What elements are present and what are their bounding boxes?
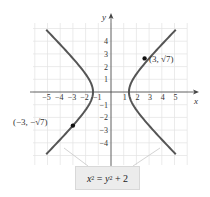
y-tick-label: 3 [104,50,108,59]
x-tick-label: 2 [135,93,139,102]
leader-line-right [133,148,160,166]
point-3-sqrt7 [142,56,146,60]
x-tick-label: −3 [68,93,77,102]
y-tick-label: −4 [99,139,108,148]
point-label-neg3-negsqrt7: (−3, −√7) [13,117,48,127]
y-tick-label: 2 [104,63,108,72]
y-tick-label: −3 [99,126,108,135]
eq-equals: = [94,173,105,184]
x-tick-label: −5 [42,93,51,102]
y-axis-label: y [101,12,106,22]
x-axis-label: x [193,96,198,106]
leader-line-left [64,148,88,166]
y-tick-label: 4 [104,37,108,46]
point-neg3-negsqrt7 [71,123,75,127]
x-tick-label: 5 [174,93,178,102]
equation-label: x2 = y2 + 2 [75,166,140,190]
y-tick-label: −1 [99,101,108,110]
x-tick-label: −4 [55,93,64,102]
x-tick-label: 4 [161,93,165,102]
x-tick-label: −2 [80,93,89,102]
eq-rhs-rest: + 2 [112,173,128,184]
y-tick-label: 1 [104,75,108,84]
x-tick-label: 1 [123,93,127,102]
point-label-3-sqrt7: (3, √7) [149,54,173,64]
x-tick-label: 3 [148,93,152,102]
y-tick-label: −2 [99,113,108,122]
